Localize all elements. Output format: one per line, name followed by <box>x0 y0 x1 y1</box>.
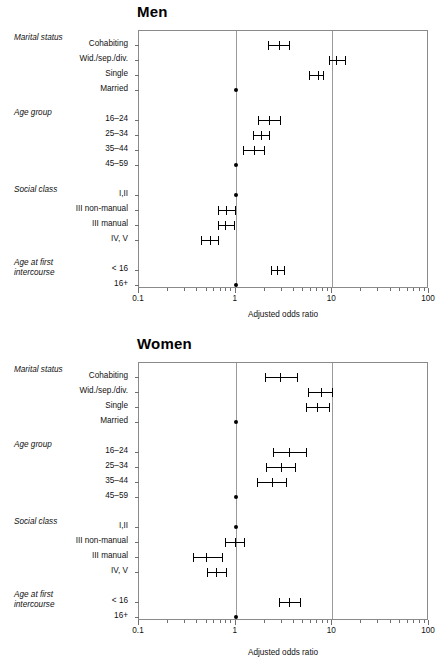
x-tick-minor <box>293 620 294 623</box>
row-tick <box>135 422 139 423</box>
x-tick-minor <box>399 288 400 291</box>
row-tick <box>135 452 139 453</box>
x-tick-minor <box>327 288 328 291</box>
x-tick-label: 1 <box>232 294 237 303</box>
x-tick-major <box>331 620 332 625</box>
row-label-cohabiting: Cohabiting <box>89 371 128 380</box>
point-estimate-marker <box>280 373 281 382</box>
row-labels-men: Marital status Age group Social class Ag… <box>0 0 134 332</box>
point-estimate-marker <box>269 116 270 125</box>
ci-cap-lower <box>329 56 330 65</box>
group-label-socialclass-men: Social class <box>14 185 57 195</box>
ci-cap-upper <box>345 56 346 65</box>
ci-cap-lower <box>218 221 219 230</box>
ci-cap-upper <box>289 41 290 50</box>
row-label-25-34: 25–34 <box>105 461 128 470</box>
ci-cap-lower <box>243 146 244 155</box>
row-tick <box>135 225 139 226</box>
x-tick-major <box>235 620 236 625</box>
x-tick-minor <box>264 288 265 291</box>
x-tick-minor <box>327 620 328 623</box>
ci-cap-lower <box>218 206 219 215</box>
point-estimate-marker <box>318 71 319 80</box>
row-label-i-ii: I,II <box>119 521 128 530</box>
x-tick-minor <box>310 288 311 291</box>
x-tick-minor <box>196 288 197 291</box>
point-estimate-marker <box>317 403 318 412</box>
row-label-single: Single <box>105 69 128 78</box>
row-label-i-ii: I,II <box>119 189 128 198</box>
forest-plot-women <box>138 362 428 620</box>
gridline-or-1 <box>236 363 237 619</box>
gridline-or-1 <box>236 31 237 287</box>
ci-cap-lower <box>225 538 226 547</box>
row-label-married: Married <box>100 84 128 93</box>
row-label-25-34: 25–34 <box>105 129 128 138</box>
ci-cap-lower <box>279 598 280 607</box>
point-estimate-marker <box>254 146 255 155</box>
reference-point-marker <box>234 495 238 499</box>
panel-women: Women Marital status Age group Social cl… <box>0 332 446 672</box>
ci-cap-upper <box>284 266 285 275</box>
point-estimate-marker <box>289 598 290 607</box>
ci-cap-upper <box>264 146 265 155</box>
ci-cap-upper <box>226 568 227 577</box>
x-tick-minor <box>424 620 425 623</box>
ci-cap-upper <box>295 463 296 472</box>
row-labels-women: Marital status Age group Social class Ag… <box>0 332 134 672</box>
ci-cap-upper <box>332 388 333 397</box>
x-tick-minor <box>322 620 323 623</box>
group-label-marital-women: Marital status <box>14 365 63 375</box>
row-tick <box>135 617 139 618</box>
row-label-45-59: 45–59 <box>105 159 128 168</box>
row-tick <box>135 240 139 241</box>
row-label-16: 16+ <box>114 611 128 620</box>
ci-cap-upper <box>280 116 281 125</box>
x-tick-minor <box>230 288 231 291</box>
x-tick-minor <box>225 288 226 291</box>
x-tick-label: 100 <box>421 626 435 635</box>
row-tick <box>135 60 139 61</box>
ci-cap-upper <box>234 221 235 230</box>
reference-point-marker <box>234 283 238 287</box>
x-tick-minor <box>413 288 414 291</box>
row-label-16: 16+ <box>114 279 128 288</box>
x-tick-major <box>428 620 429 625</box>
point-estimate-marker <box>289 448 290 457</box>
point-estimate-marker <box>281 463 282 472</box>
row-tick <box>135 135 139 136</box>
row-label-iii-manual: III manual <box>92 219 128 228</box>
ci-cap-lower <box>306 403 307 412</box>
x-tick-minor <box>213 288 214 291</box>
row-label-35-44: 35–44 <box>105 476 128 485</box>
panel-men: Men Marital status Age group Social clas… <box>0 0 446 332</box>
row-tick <box>135 542 139 543</box>
x-tick-minor <box>230 620 231 623</box>
x-tick-minor <box>413 620 414 623</box>
row-label-16: < 16 <box>112 596 128 605</box>
x-tick-minor <box>281 620 282 623</box>
point-estimate-marker <box>321 388 322 397</box>
gridline-or-10 <box>332 31 333 287</box>
ci-cap-lower <box>193 553 194 562</box>
reference-point-marker <box>234 88 238 92</box>
x-tick-minor <box>407 620 408 623</box>
group-label-marital-men: Marital status <box>14 33 63 43</box>
x-tick-major <box>235 288 236 293</box>
x-tick-minor <box>424 288 425 291</box>
x-tick-major <box>138 288 139 293</box>
row-tick <box>135 150 139 151</box>
reference-point-marker <box>234 615 238 619</box>
row-tick <box>135 210 139 211</box>
x-tick-label: 0.1 <box>132 626 143 635</box>
point-estimate-marker <box>272 478 273 487</box>
x-tick-minor <box>419 620 420 623</box>
ci-cap-upper <box>300 598 301 607</box>
x-tick-minor <box>264 620 265 623</box>
ci-cap-upper <box>235 206 236 215</box>
ci-cap-lower <box>266 463 267 472</box>
row-label-45-59: 45–59 <box>105 491 128 500</box>
row-tick <box>135 195 139 196</box>
ci-cap-lower <box>257 478 258 487</box>
x-tick-minor <box>316 288 317 291</box>
